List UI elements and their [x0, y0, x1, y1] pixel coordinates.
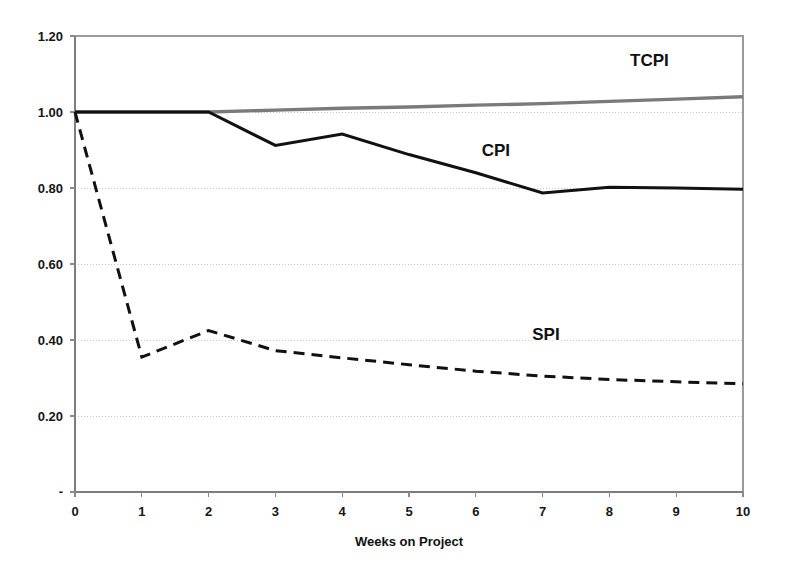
- y-tick-label: 1.20: [38, 29, 63, 44]
- x-tick-label: 10: [736, 504, 750, 519]
- series-label-cpi: CPI: [482, 141, 510, 160]
- y-tick-label: 1.00: [38, 105, 63, 120]
- x-tick-label: 1: [138, 504, 145, 519]
- x-tick-label: 4: [339, 504, 347, 519]
- y-tick-label: 0.20: [38, 409, 63, 424]
- x-tick-label: 9: [673, 504, 680, 519]
- x-tick-label: 6: [472, 504, 479, 519]
- chart-background: [0, 0, 794, 576]
- line-chart: -0.200.400.600.801.001.20 012345678910 T…: [0, 0, 794, 576]
- y-tick-label: 0.60: [38, 257, 63, 272]
- chart-container: -0.200.400.600.801.001.20 012345678910 T…: [0, 0, 794, 576]
- x-tick-label: 7: [539, 504, 546, 519]
- y-tick-label: 0.40: [38, 333, 63, 348]
- series-label-spi: SPI: [532, 325, 559, 344]
- x-tick-label: 2: [205, 504, 212, 519]
- series-label-tcpi: TCPI: [630, 51, 669, 70]
- x-tick-label: 0: [71, 504, 78, 519]
- y-tick-label: -: [59, 484, 63, 499]
- x-tick-label: 8: [606, 504, 613, 519]
- x-tick-label: 5: [405, 504, 412, 519]
- x-tick-label: 3: [272, 504, 279, 519]
- x-axis-title: Weeks on Project: [355, 534, 464, 549]
- y-tick-label: 0.80: [38, 181, 63, 196]
